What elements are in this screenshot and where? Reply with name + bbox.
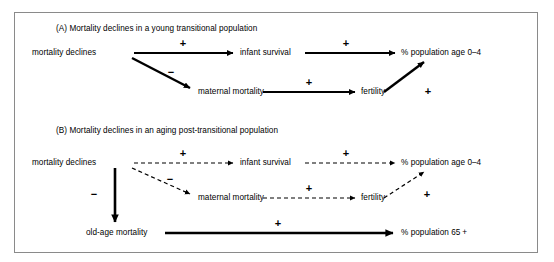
node-b-maternal-mortality: maternal mortality (198, 193, 264, 203)
sign-a-edge-1: + (176, 38, 190, 49)
node-a-infant-survival: infant survival (240, 48, 291, 58)
panel-a-title: (A) Mortality declines in a young transi… (56, 24, 257, 34)
node-a-maternal-mortality: maternal mortality (198, 87, 264, 97)
node-a-mortality-declines: mortality declines (32, 48, 96, 58)
sign-b-edge-4: + (302, 183, 316, 194)
sign-a-edge-3: − (164, 67, 178, 78)
sign-b-edge-5: + (420, 189, 434, 200)
node-a-population-age-0-4: % population age 0–4 (401, 48, 481, 58)
node-b-population-65-plus: % population 65 + (401, 228, 467, 238)
node-b-fertility: fertility (361, 193, 385, 203)
node-b-old-age-mortality: old-age mortality (86, 228, 147, 238)
sign-a-edge-4: + (302, 77, 316, 88)
node-a-fertility: fertility (361, 87, 385, 97)
node-b-population-age-0-4: % population age 0–4 (401, 158, 481, 168)
sign-b-edge-6: − (87, 189, 101, 200)
node-b-infant-survival: infant survival (240, 158, 291, 168)
sign-b-edge-2: + (339, 148, 353, 159)
sign-a-edge-2: + (339, 38, 353, 49)
sign-a-edge-5: + (421, 86, 435, 97)
panel-b-title: (B) Mortality declines in an aging post-… (56, 126, 278, 136)
sign-b-edge-1: + (176, 148, 190, 159)
sign-b-edge-7: + (271, 218, 285, 229)
figure-root: (A) Mortality declines in a young transi… (0, 0, 554, 262)
sign-b-edge-3: − (163, 174, 177, 185)
node-b-mortality-declines: mortality declines (32, 158, 96, 168)
